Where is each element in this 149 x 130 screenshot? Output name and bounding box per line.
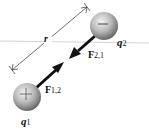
charge-q1-sphere — [13, 83, 41, 111]
baseline — [0, 41, 149, 43]
charge-q2-label: q2 — [117, 36, 127, 48]
force-f21-label: F2,1 — [88, 49, 104, 60]
distance-label: r — [44, 33, 48, 44]
charge-q2-sphere — [90, 12, 118, 40]
charge-q1-label: q1 — [21, 115, 31, 127]
coulomb-diagram — [0, 0, 149, 130]
force-f12-label: F1,2 — [45, 84, 61, 95]
